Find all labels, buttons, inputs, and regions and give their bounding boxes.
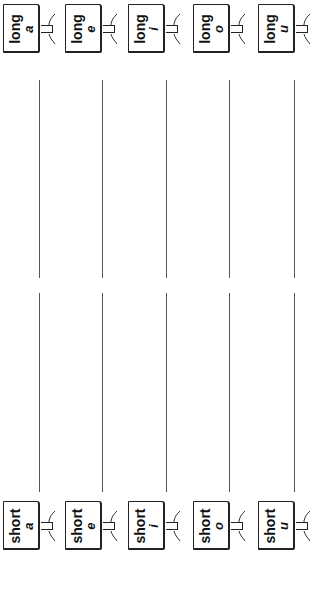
grass-icon bbox=[237, 10, 251, 48]
grass-icon bbox=[302, 10, 316, 48]
sign-label: long o bbox=[195, 6, 229, 52]
sign-label: short e bbox=[67, 503, 101, 549]
sign-label: long e bbox=[67, 6, 101, 52]
grass-icon bbox=[172, 507, 186, 545]
grass-icon bbox=[47, 10, 61, 48]
sign-vowel: a bbox=[22, 25, 35, 32]
writing-line-long-a[interactable] bbox=[39, 80, 40, 278]
sign-vowel: o bbox=[212, 25, 225, 33]
sign-vowel: i bbox=[147, 524, 160, 528]
sign-vowel: a bbox=[22, 522, 35, 529]
sign-vowel: u bbox=[277, 25, 290, 33]
sign-label: short a bbox=[5, 503, 39, 549]
grass-icon bbox=[109, 10, 123, 48]
sign-vowel: e bbox=[84, 522, 97, 529]
sign-vowel: e bbox=[84, 25, 97, 32]
sign-long-a: long a bbox=[3, 4, 41, 54]
sign-short-o: short o bbox=[193, 501, 231, 551]
sign-long-e: long e bbox=[65, 4, 103, 54]
sign-label: short u bbox=[260, 503, 294, 549]
sign-label: long a bbox=[5, 6, 39, 52]
writing-line-long-u[interactable] bbox=[294, 80, 295, 278]
sign-label: short i bbox=[130, 503, 164, 549]
writing-line-short-a[interactable] bbox=[39, 293, 40, 492]
sign-short-a: short a bbox=[3, 501, 41, 551]
sign-label: long i bbox=[130, 6, 164, 52]
sign-vowel: i bbox=[147, 27, 160, 31]
grass-icon bbox=[237, 507, 251, 545]
writing-line-short-u[interactable] bbox=[294, 293, 295, 492]
sign-short-i: short i bbox=[128, 501, 166, 551]
sign-vowel: o bbox=[212, 522, 225, 530]
sign-short-u: short u bbox=[258, 501, 296, 551]
grass-icon bbox=[109, 507, 123, 545]
sign-label: long u bbox=[260, 6, 294, 52]
sign-long-o: long o bbox=[193, 4, 231, 54]
grass-icon bbox=[47, 507, 61, 545]
sign-short-e: short e bbox=[65, 501, 103, 551]
writing-line-long-i[interactable] bbox=[166, 80, 167, 278]
sign-long-i: long i bbox=[128, 4, 166, 54]
writing-line-long-e[interactable] bbox=[102, 80, 103, 278]
sign-long-u: long u bbox=[258, 4, 296, 54]
writing-line-short-e[interactable] bbox=[102, 293, 103, 492]
sign-label: short o bbox=[195, 503, 229, 549]
sign-vowel: u bbox=[277, 522, 290, 530]
grass-icon bbox=[302, 507, 316, 545]
writing-line-short-i[interactable] bbox=[166, 293, 167, 492]
writing-line-short-o[interactable] bbox=[229, 293, 230, 492]
writing-line-long-o[interactable] bbox=[229, 80, 230, 278]
grass-icon bbox=[172, 10, 186, 48]
